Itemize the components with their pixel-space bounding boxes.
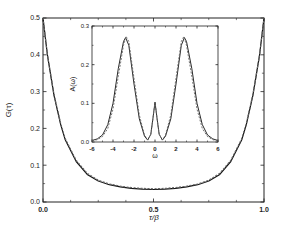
y-tick-label: 0.2 (30, 125, 40, 132)
y-tick-label: 0.0 (81, 139, 90, 145)
x-tick-label: 1.0 (259, 206, 269, 213)
x-tick-label: 0.5 (149, 206, 159, 213)
x-tick-label: 2 (174, 146, 178, 152)
y-tick-label: 0.1 (81, 100, 90, 106)
main-x-axis-label: τ/β (149, 213, 159, 222)
y-tick-label: 0.3 (30, 88, 40, 95)
inset-x-axis-label: ω (152, 152, 158, 159)
y-tick-label: 0.1 (30, 162, 40, 169)
y-tick-label: 0.3 (81, 23, 90, 29)
inset-y-axis-label: A(ω) (69, 77, 77, 92)
y-tick-label: 0.4 (30, 51, 40, 58)
y-tick-label: 0.5 (30, 14, 40, 21)
x-tick-label: -2 (131, 146, 137, 152)
figure: 0.00.51.00.00.10.20.30.40.5 G(τ) τ/β -6-… (0, 0, 284, 232)
main-y-axis-label: G(τ) (4, 102, 13, 117)
x-tick-label: -4 (110, 146, 116, 152)
y-tick-label: 0.0 (30, 198, 40, 205)
inset-plot-frame (92, 26, 218, 142)
x-tick-label: 6 (216, 146, 220, 152)
y-tick-label: 0.2 (81, 62, 90, 68)
x-tick-label: 0.0 (38, 206, 48, 213)
x-tick-label: -6 (89, 146, 95, 152)
x-tick-label: 4 (195, 146, 199, 152)
